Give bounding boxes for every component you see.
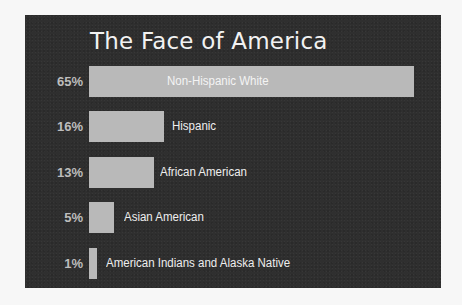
chart-panel: The Face of America 65% Non-Hispanic Whi… [25, 15, 441, 288]
category-label: Non-Hispanic White [167, 66, 269, 97]
value-label: 65% [57, 66, 83, 97]
bar-row-hispanic: 16% Hispanic [25, 111, 441, 142]
category-label: Asian American [124, 202, 204, 233]
bar-row-african-american: 13% African American [25, 157, 441, 188]
value-label: 1% [64, 248, 83, 279]
bar-row-american-indians-alaska-native: 1% American Indians and Alaska Native [25, 248, 441, 279]
value-label: 13% [57, 157, 83, 188]
category-label: African American [160, 157, 247, 188]
category-label: Hispanic [172, 111, 216, 142]
bar-row-non-hispanic-white: 65% Non-Hispanic White [25, 66, 441, 97]
bar [89, 248, 97, 279]
value-label: 16% [57, 111, 83, 142]
value-label: 5% [64, 202, 83, 233]
bar [89, 157, 154, 188]
category-label: American Indians and Alaska Native [106, 248, 290, 279]
bar-row-asian-american: 5% Asian American [25, 202, 441, 233]
bar [89, 111, 164, 142]
chart-title: The Face of America [90, 28, 328, 54]
bar [89, 202, 114, 233]
